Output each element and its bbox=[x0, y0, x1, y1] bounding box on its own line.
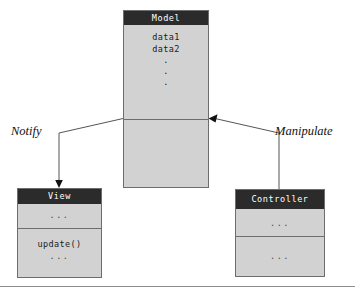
mvc-diagram: Model data1 data2 . . . View ... update(… bbox=[0, 0, 355, 293]
manipulate-arrowhead-icon bbox=[209, 114, 218, 122]
model-attributes-compartment: data1 data2 . . . bbox=[124, 25, 208, 119]
view-operation: update() bbox=[18, 238, 101, 250]
notify-arrowhead-icon bbox=[55, 180, 63, 188]
model-attribute: data1 bbox=[124, 31, 208, 43]
edge-label-manipulate: Manipulate bbox=[275, 124, 333, 139]
class-box-controller[interactable]: Controller ... ... bbox=[235, 189, 325, 277]
controller-operations-compartment: ... bbox=[236, 236, 324, 276]
class-box-model[interactable]: Model data1 data2 . . . bbox=[123, 10, 209, 188]
manipulate-connector bbox=[215, 119, 279, 190]
model-operations-compartment bbox=[124, 119, 208, 187]
notify-connector bbox=[59, 119, 123, 182]
class-name-view: View bbox=[18, 189, 101, 204]
controller-attribute: ... bbox=[236, 217, 324, 229]
class-name-controller: Controller bbox=[236, 190, 324, 209]
model-ellipsis-dot: . bbox=[124, 77, 208, 88]
view-attribute: ... bbox=[18, 209, 101, 221]
view-operation: ... bbox=[18, 250, 101, 262]
diagram-page: Model data1 data2 . . . View ... update(… bbox=[0, 0, 355, 293]
controller-attributes-compartment: ... bbox=[236, 209, 324, 236]
model-ellipsis-dot: . bbox=[124, 55, 208, 66]
class-name-model: Model bbox=[124, 11, 208, 25]
edge-label-notify: Notify bbox=[11, 124, 42, 139]
model-ellipsis-dot: . bbox=[124, 66, 208, 77]
page-divider bbox=[0, 286, 355, 287]
controller-operation: ... bbox=[236, 250, 324, 262]
model-attribute: data2 bbox=[124, 43, 208, 55]
view-operations-compartment: update() ... bbox=[18, 228, 101, 277]
view-attributes-compartment: ... bbox=[18, 204, 101, 228]
class-box-view[interactable]: View ... update() ... bbox=[17, 188, 102, 278]
